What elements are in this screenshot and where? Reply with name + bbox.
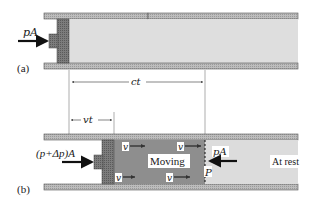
panel-b: (p+Δp)A v v v v Moving P pA At rest ( [17,134,305,196]
svg-text:v: v [178,142,183,152]
svg-text:v: v [116,173,121,183]
point-p-label: P [204,167,212,178]
svg-text:v: v [123,142,128,152]
panel-b-label: (b) [17,183,30,196]
ct-label: ct [131,76,142,87]
pipe-bottom-wall [44,63,298,69]
piston-b [94,140,114,184]
force-label-right-b: pA [213,146,227,157]
force-label-a: pA [23,26,38,39]
force-label-left-b: (p+Δp)A [36,147,75,160]
moving-label: Moving [150,155,185,167]
dimension-lines: ct vt [69,70,205,134]
pipe-bottom-wall-b [44,184,298,190]
svg-text:v: v [167,173,172,183]
pipe-top-wall [44,13,148,19]
panel-a: pA (a) [17,13,298,75]
panel-a-label: (a) [17,62,30,75]
at-rest-label: At rest [272,156,299,167]
piston-a [49,19,69,63]
vt-label: vt [83,114,94,125]
pipe-top-wall-b [44,134,298,140]
water-hammer-diagram: pA (a) ct vt (p+Δp)A [0,0,330,203]
fluid-at-rest-a [69,19,148,63]
